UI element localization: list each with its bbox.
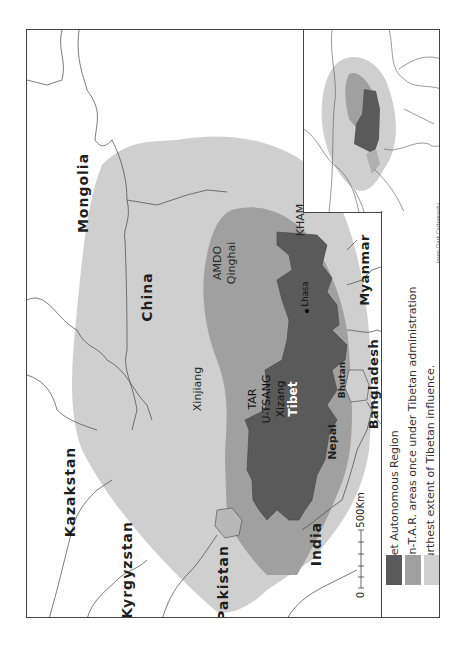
label-india: India bbox=[309, 522, 323, 566]
label-xinjiang: Xinjiang bbox=[192, 367, 203, 411]
scale-end-label: 500Km bbox=[356, 492, 366, 527]
inset-map-graphic bbox=[304, 29, 440, 212]
label-bangladesh: Bangladesh bbox=[367, 339, 380, 430]
label-china: China bbox=[140, 272, 154, 321]
legend-label-tar: Tibet Autonomous Region bbox=[389, 430, 400, 572]
label-tibet: Tibet bbox=[287, 382, 299, 417]
inset-map bbox=[303, 29, 440, 213]
label-qinghai: Qinghai bbox=[226, 242, 237, 284]
scale-bar bbox=[358, 530, 364, 588]
label-amdo: AMDO bbox=[212, 246, 223, 280]
legend-panel: Tibet Autonomous Region Non-T.A.R. areas… bbox=[381, 211, 440, 618]
label-xizang: Xizang bbox=[275, 380, 286, 417]
label-u-tsang: U-TSANG bbox=[261, 374, 272, 423]
label-nepal: Nepal bbox=[327, 424, 338, 460]
label-kyrgyzstan: Kyrgyzstan bbox=[120, 521, 134, 618]
legend-label-non-tar: Non-T.A.R. areas once under Tibetan admi… bbox=[407, 287, 418, 570]
scale-start-label: 0 bbox=[356, 592, 366, 598]
legend-swatch-tar bbox=[386, 555, 402, 585]
legend-swatch-non-tar bbox=[405, 555, 421, 585]
lhasa-marker bbox=[305, 309, 309, 313]
label-pakistan: Pakistan bbox=[216, 545, 230, 618]
label-myanmar: Myanmar bbox=[358, 234, 371, 306]
label-tar: TAR bbox=[247, 388, 258, 409]
legend-label-influence: Furthest extent of Tibetan influence. bbox=[425, 365, 436, 566]
label-kazakstan: Kazakstan bbox=[63, 447, 77, 538]
label-bhutan: Bhutan bbox=[338, 362, 347, 398]
label-lhasa: Lhasa bbox=[301, 282, 310, 307]
label-mongolia: Mongolia bbox=[76, 153, 90, 233]
credit-text: Jason Clark Cartography bbox=[436, 203, 441, 264]
map-frame: Mongolia China Kazakstan Kyrgyzstan Paki… bbox=[26, 29, 440, 618]
legend-swatch-influence bbox=[424, 555, 440, 585]
